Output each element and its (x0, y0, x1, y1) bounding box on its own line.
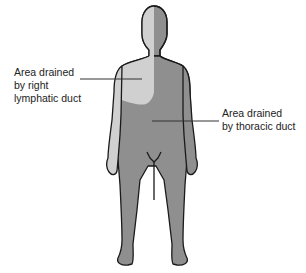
label-line: Area drained (222, 107, 296, 120)
body-thoracic-region (114, 6, 197, 265)
human-body-figure (0, 0, 306, 273)
lymphatic-drainage-diagram: Area drained by right lymphatic duct Are… (0, 0, 306, 273)
label-right-lymphatic-duct: Area drained by right lymphatic duct (14, 66, 81, 105)
label-line: Area drained (14, 66, 81, 79)
label-thoracic-duct: Area drained by thoracic duct (222, 107, 296, 133)
label-line: by right (14, 79, 81, 92)
label-line: by thoracic duct (222, 120, 296, 133)
label-line: lymphatic duct (14, 92, 81, 105)
